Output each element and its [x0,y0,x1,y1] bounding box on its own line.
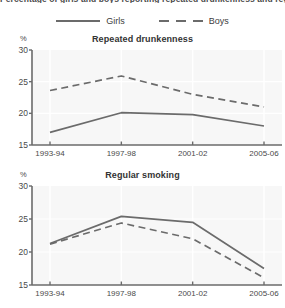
chart-panel-regular-smoking: Regular smoking % 30252015 1993-941997-9… [0,168,285,308]
x-axis-ticks-2: 1993-941997-982001-022005-06 [0,289,285,301]
dashed-line-swatch [159,17,203,25]
y-axis-tick-label: 20 [10,248,28,257]
x-axis-tick-label: 2001-02 [163,149,223,158]
plot-svg-1 [0,32,285,168]
y-axis-tick-label: 25 [10,215,28,224]
plot-area-2: 30252015 1993-941997-982001-022005-06 [0,168,285,308]
legend-label-boys: Boys [209,16,229,26]
y-axis-tick-label: 20 [10,109,28,118]
x-axis-tick-label: 1993-94 [20,289,80,298]
y-axis-ticks-1: 30252015 [10,32,28,168]
x-axis-tick-label: 2005-06 [234,289,285,298]
legend-item-girls: Girls [56,16,125,26]
y-axis-tick-label: 30 [10,182,28,191]
plot-area-1: 30252015 1993-941997-982001-022005-06 [0,32,285,168]
legend-item-boys: Boys [159,16,229,26]
y-axis-ticks-2: 30252015 [10,168,28,308]
x-axis-ticks-1: 1993-941997-982001-022005-06 [0,149,285,161]
x-axis-tick-label: 1997-98 [91,149,151,158]
legend-label-girls: Girls [106,16,125,26]
solid-line-swatch [56,17,100,25]
chart-panel-repeated-drunkenness: Repeated drunkenness % 30252015 1993-941… [0,32,285,168]
plot-svg-2 [0,168,285,308]
x-axis-tick-label: 1997-98 [91,289,151,298]
y-axis-tick-label: 25 [10,78,28,87]
chart-figure: Percentage of girls and boys reporting r… [0,0,285,308]
x-axis-tick-label: 2001-02 [163,289,223,298]
x-axis-tick-label: 2005-06 [234,149,285,158]
x-axis-tick-label: 1993-94 [20,149,80,158]
figure-title: Percentage of girls and boys reporting r… [0,0,285,3]
legend: Girls Boys [0,13,285,29]
y-axis-tick-label: 30 [10,46,28,55]
